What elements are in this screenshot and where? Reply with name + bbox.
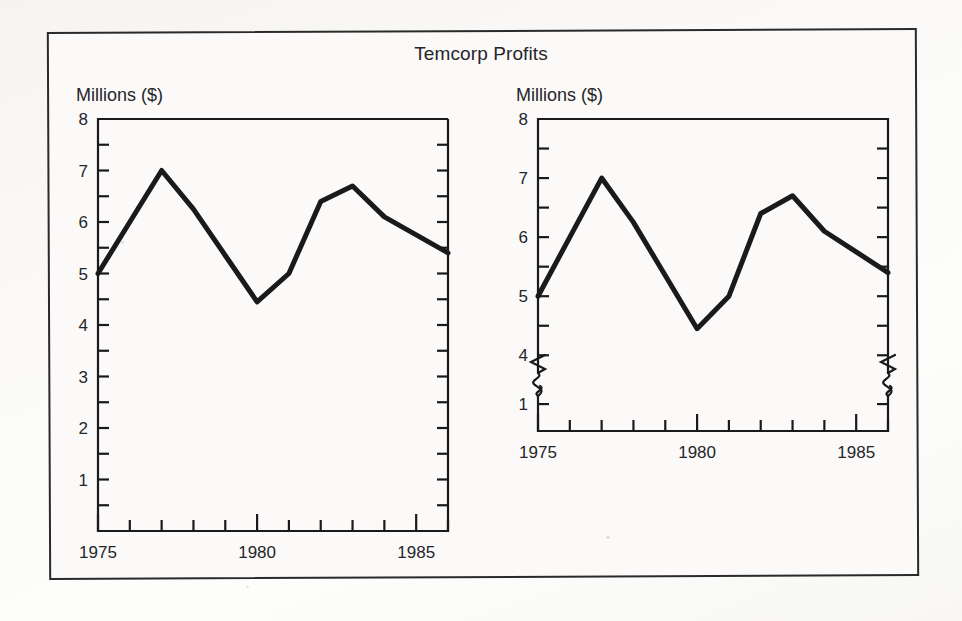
left-chart-y-tick-label: 6	[79, 213, 88, 232]
right-chart-y-tick-label: 6	[519, 228, 528, 247]
left-chart-x-tick-label: 1980	[238, 543, 276, 562]
left-chart-y-tick-label: 1	[79, 471, 88, 490]
left-chart-data-line	[98, 171, 448, 302]
left-chart-y-tick-label: 2	[79, 419, 88, 438]
figure-page: Temcorp Profits Millions ($) 12345678197…	[0, 0, 962, 621]
left-chart-y-tick-label: 5	[79, 265, 88, 284]
right-chart-y-tick-label: 5	[519, 287, 528, 306]
scan-speck	[246, 586, 249, 588]
right-chart-y-tick-label: 8	[519, 110, 528, 129]
left-chart-x-tick-label: 1975	[79, 543, 117, 562]
right-chart-x-tick-label: 1985	[837, 443, 875, 462]
left-chart-y-tick-label: 4	[79, 316, 88, 335]
right-chart-data-line	[538, 178, 888, 329]
right-chart-x-tick-label: 1980	[678, 443, 716, 462]
right-chart-y-stub-tick-label: 1	[519, 395, 528, 414]
left-chart-y-tick-label: 8	[79, 110, 88, 129]
figure-title: Temcorp Profits	[0, 43, 962, 65]
scan-speck	[121, 241, 124, 244]
left-chart-y-tick-label: 7	[79, 162, 88, 181]
left-chart-x-tick-label: 1985	[397, 543, 435, 562]
left-chart-y-tick-label: 3	[79, 368, 88, 387]
right-chart-plot: 456781197519801985	[510, 111, 910, 471]
scan-speck	[606, 536, 610, 539]
left-chart-plot: 12345678197519801985	[70, 111, 470, 591]
right-chart-x-tick-label: 1975	[519, 443, 557, 462]
left-chart-y-axis-title: Millions ($)	[76, 85, 163, 106]
right-chart-y-tick-label: 4	[519, 346, 528, 365]
right-chart-y-axis-title: Millions ($)	[516, 85, 603, 106]
right-chart-y-tick-label: 7	[519, 169, 528, 188]
